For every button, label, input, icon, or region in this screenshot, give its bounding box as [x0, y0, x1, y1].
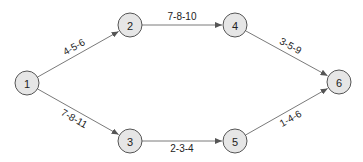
node-6: 6 — [327, 70, 351, 94]
edge-1-3: 7-8-11 — [37, 89, 118, 135]
node-label: 1 — [24, 78, 30, 90]
edge-label: 2-3-4 — [170, 143, 194, 154]
node-4: 4 — [223, 13, 247, 37]
edge-label: 1-4-6 — [277, 108, 303, 129]
node-2: 2 — [118, 13, 142, 37]
edge-5-6: 1-4-6 — [245, 88, 327, 135]
edge-label: 4-5-6 — [61, 36, 87, 57]
node-5: 5 — [223, 129, 247, 153]
network-diagram: 4-5-67-8-117-8-102-3-43-5-91-4-6 123456 — [0, 0, 363, 162]
node-3: 3 — [118, 129, 142, 153]
edge-arrow-line — [245, 88, 327, 135]
edge-arrow-line — [37, 89, 118, 135]
edge-1-2: 4-5-6 — [37, 31, 118, 77]
node-label: 2 — [127, 20, 133, 32]
node-label: 6 — [336, 77, 342, 89]
edge-3-5: 2-3-4 — [142, 141, 222, 154]
edge-2-4: 7-8-10 — [142, 11, 222, 25]
node-label: 4 — [232, 20, 238, 32]
nodes-layer: 123456 — [15, 13, 351, 153]
edge-4-6: 3-5-9 — [246, 31, 328, 76]
edge-label: 7-8-10 — [168, 11, 197, 22]
diagram-svg: 4-5-67-8-117-8-102-3-43-5-91-4-6 123456 — [0, 0, 363, 162]
node-label: 5 — [232, 136, 238, 148]
edges-layer: 4-5-67-8-117-8-102-3-43-5-91-4-6 — [37, 11, 327, 154]
node-1: 1 — [15, 71, 39, 95]
edge-label: 3-5-9 — [278, 35, 304, 56]
node-label: 3 — [127, 136, 133, 148]
